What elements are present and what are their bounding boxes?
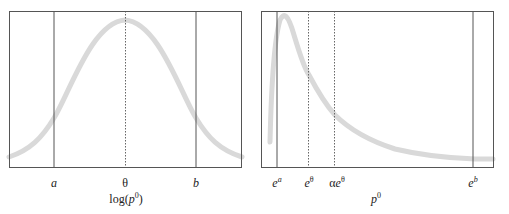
right-x-axis-label: p0 (370, 191, 381, 206)
tick-label-e-a: ea (272, 175, 281, 190)
left-panel: a θ b log(p0) (9, 11, 242, 206)
right-density-curve (270, 16, 493, 159)
tick-label-e-theta: eθ (304, 175, 313, 190)
tick-label-a: a (51, 176, 57, 190)
tick-label-theta: θ (122, 176, 128, 190)
right-panel: ea eθ αeθ eb p0 (262, 11, 494, 206)
left-x-axis-label: log(p0) (109, 191, 142, 206)
tick-label-e-b: eb (468, 175, 477, 190)
figure: a θ b log(p0) ea eθ αeθ eb p0 (0, 0, 509, 214)
left-density-curve (9, 20, 242, 157)
tick-label-b: b (193, 176, 199, 190)
tick-label-alpha-e-theta: αeθ (329, 175, 345, 190)
